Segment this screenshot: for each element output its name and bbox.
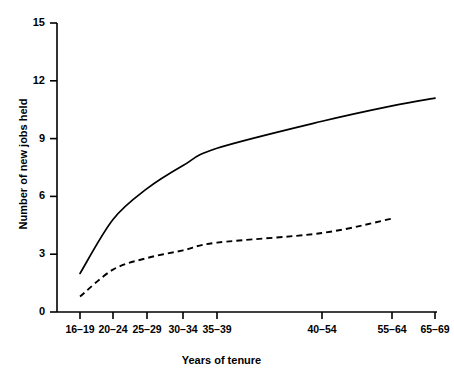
series-solid-curve: [80, 98, 435, 273]
y-tick-marks: [50, 23, 57, 312]
x-tick-marks: [80, 312, 435, 319]
series-dashed-curve: [80, 219, 392, 297]
